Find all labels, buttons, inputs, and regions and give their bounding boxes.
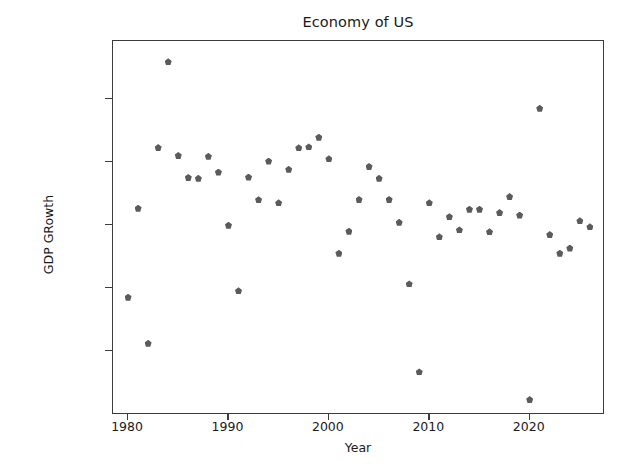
scatter-point (235, 287, 242, 294)
scatter-point (476, 206, 483, 213)
scatter-point (275, 199, 282, 206)
scatter-point (436, 233, 443, 240)
y-tick-mark (105, 224, 112, 225)
scatter-point (366, 163, 373, 170)
scatter-point (566, 245, 573, 252)
scatter-point (516, 212, 523, 219)
x-tick-label: 1990 (212, 419, 244, 434)
scatter-point (406, 280, 413, 287)
y-axis-label: GDP GRowth (41, 165, 56, 305)
matplotlib-figure: Economy of US GDP GRowth 0.060.040.020.0… (0, 0, 631, 473)
y-tick-mark (105, 98, 112, 99)
scatter-point (586, 223, 593, 230)
scatter-point (155, 144, 162, 151)
scatter-point (175, 152, 182, 159)
x-tick-label: 2000 (312, 419, 344, 434)
y-tick-mark (105, 161, 112, 162)
scatter-point (446, 213, 453, 220)
scatter-point (386, 196, 393, 203)
scatter-point (466, 206, 473, 213)
scatter-point (345, 228, 352, 235)
scatter-point (135, 205, 142, 212)
scatter-point (546, 231, 553, 238)
scatter-point (486, 228, 493, 235)
scatter-point (245, 174, 252, 181)
scatter-point (325, 155, 332, 162)
x-axis-label: Year (112, 440, 604, 455)
scatter-point (426, 199, 433, 206)
scatter-points-layer (113, 41, 603, 413)
y-tick-mark (105, 287, 112, 288)
scatter-point (205, 153, 212, 160)
plot-area (112, 40, 604, 414)
scatter-point (295, 144, 302, 151)
scatter-point (556, 250, 563, 257)
scatter-point (145, 340, 152, 347)
scatter-point (335, 250, 342, 257)
chart-title: Economy of US (112, 14, 604, 30)
scatter-point (195, 175, 202, 182)
scatter-point (185, 174, 192, 181)
scatter-point (265, 158, 272, 165)
scatter-point (125, 294, 132, 301)
scatter-point (526, 396, 533, 403)
scatter-point (285, 166, 292, 173)
scatter-point (376, 175, 383, 182)
scatter-point (356, 196, 363, 203)
scatter-point (506, 193, 513, 200)
scatter-point (215, 169, 222, 176)
scatter-point (305, 143, 312, 150)
x-tick-label: 2020 (513, 419, 545, 434)
scatter-point (165, 58, 172, 65)
scatter-point (536, 105, 543, 112)
scatter-point (576, 217, 583, 224)
y-tick-mark (105, 350, 112, 351)
scatter-point (315, 134, 322, 141)
scatter-point (456, 226, 463, 233)
x-tick-label: 1980 (111, 419, 143, 434)
scatter-point (255, 196, 262, 203)
x-tick-label: 2010 (412, 419, 444, 434)
scatter-point (225, 222, 232, 229)
scatter-point (496, 209, 503, 216)
scatter-point (416, 368, 423, 375)
scatter-point (396, 219, 403, 226)
